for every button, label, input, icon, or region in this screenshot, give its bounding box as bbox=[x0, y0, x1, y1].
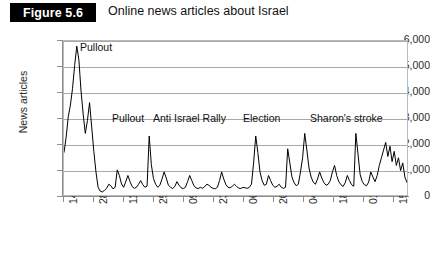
x-axis-line bbox=[62, 196, 409, 197]
x-axis-tick-mark bbox=[93, 197, 94, 202]
y-axis-title: News articles bbox=[17, 52, 29, 152]
annot-election: Election bbox=[243, 112, 280, 124]
figure-number-badge: Figure 5.6 bbox=[10, 3, 96, 22]
annot-sharons-stroke: Sharon's stroke bbox=[310, 112, 383, 124]
x-axis-tick-mark bbox=[63, 197, 64, 202]
annot-pullout-2: Pullout bbox=[112, 112, 144, 124]
x-axis-tick-mark bbox=[363, 197, 364, 202]
x-axis-tick-mark bbox=[333, 197, 334, 202]
y-axis-tick-mark bbox=[57, 170, 62, 171]
y-axis-tick-mark bbox=[57, 66, 62, 67]
figure-header: Figure 5.6 Online news articles about Is… bbox=[0, 0, 430, 26]
figure-title: Online news articles about Israel bbox=[108, 4, 289, 18]
x-axis-tick-mark bbox=[273, 197, 274, 202]
x-axis-tick-mark bbox=[123, 197, 124, 202]
x-axis-tick-mark bbox=[153, 197, 154, 202]
y-axis-tick-mark bbox=[57, 144, 62, 145]
x-axis-tick-mark bbox=[243, 197, 244, 202]
annot-pullout-1: Pullout bbox=[80, 41, 112, 53]
x-axis-tick-mark bbox=[183, 197, 184, 202]
x-axis-tick-mark bbox=[303, 197, 304, 202]
y-axis-tick-mark bbox=[57, 92, 62, 93]
chart-container: News articles 01,0002,0003,0004,0005,000… bbox=[0, 26, 430, 277]
x-axis-tick-mark bbox=[393, 197, 394, 202]
y-axis-tick-mark bbox=[57, 118, 62, 119]
x-axis-tick-mark bbox=[213, 197, 214, 202]
y-axis-tick-mark bbox=[57, 196, 62, 197]
y-axis-tick-mark bbox=[57, 40, 62, 41]
annot-anti-israel-rally: Anti Israel Rally bbox=[153, 112, 226, 124]
